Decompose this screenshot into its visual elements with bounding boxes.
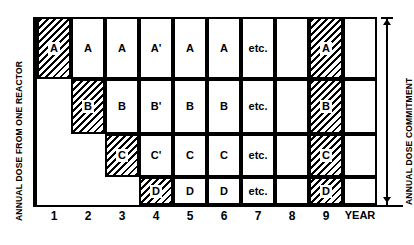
bar-cell-label: C [220, 150, 228, 161]
bar-cell-year-5-row-C: C [173, 134, 207, 177]
bar-cell-year-legend-row-D [343, 177, 377, 205]
bar-cell-year-9-row-D: D [309, 177, 343, 205]
bar-cell-year-9-row-C: C [309, 134, 343, 177]
bar-cell-label: C' [151, 150, 162, 161]
x-axis-line [33, 205, 403, 207]
bar-cell-year-5-row-A: A [173, 17, 207, 79]
bar-cell-label: A' [151, 43, 162, 54]
bar-cell-label: etc. [249, 101, 268, 112]
bar-cell-label: B [220, 101, 228, 112]
bar-cell-year-2-row-A: A [71, 17, 105, 79]
bar-cell-year-7-row-C: etc. [241, 134, 275, 177]
bar-cell-year-7-row-D: etc. [241, 177, 275, 205]
bar-cell-label: A [186, 43, 194, 54]
bar-cell-year-legend-row-C [343, 134, 377, 177]
bar-cell-year-legend-row-A [343, 17, 377, 79]
x-tick-label-3: 3 [105, 209, 139, 223]
bar-cell-label: B [321, 101, 331, 112]
plot-area: AABABCA'B'C'DABCDABCDetc.etc.etc.etc.ABC… [37, 17, 377, 205]
bar-cell-year-5-row-D: D [173, 177, 207, 205]
bar-cell-year-3-row-B: B [105, 79, 139, 134]
x-tick-label-8: 8 [275, 209, 309, 223]
bar-cell-year-9-row-A: A [309, 17, 343, 79]
bar-cell-year-legend-row-B [343, 79, 377, 134]
bar-cell-label: A [321, 43, 331, 54]
bar-cell-year-8-row-B [275, 79, 309, 134]
bar-cell-label: D [220, 186, 228, 197]
bar-cell-label: B' [151, 101, 162, 112]
bar-cell-year-4-row-D: D [139, 177, 173, 205]
x-tick-label-6: 6 [207, 209, 241, 223]
arrow-head-down-icon [383, 197, 391, 203]
annual-dose-commitment-arrow [381, 17, 393, 207]
bar-cell-label: C [117, 150, 127, 161]
bar-cell-year-9-row-B: B [309, 79, 343, 134]
bar-cell-year-7-row-A: etc. [241, 17, 275, 79]
bar-cell-label: B [83, 101, 93, 112]
arrow-head-up-icon [383, 19, 391, 25]
x-tick-label-2: 2 [71, 209, 105, 223]
bar-cell-year-4-row-A: A' [139, 17, 173, 79]
bar-cell-year-6-row-A: A [207, 17, 241, 79]
bar-cell-year-5-row-B: B [173, 79, 207, 134]
x-tick-label-5: 5 [173, 209, 207, 223]
bar-cell-year-1-row-A: A [37, 17, 71, 79]
bar-cell-label: etc. [249, 150, 268, 161]
arrow-cap-bottom [381, 205, 393, 207]
bar-cell-label: etc. [249, 186, 268, 197]
x-tick-label-1: 1 [37, 209, 71, 223]
bar-cell-year-4-row-C: C' [139, 134, 173, 177]
x-tick-label-9: 9 [309, 209, 343, 223]
x-axis-unit-label: YEAR [343, 209, 377, 221]
x-tick-label-7: 7 [241, 209, 275, 223]
bar-cell-year-2-row-B: B [71, 79, 105, 134]
y-axis-right-label: ANNUAL DOSE COMMITMENT [404, 78, 414, 206]
bar-cell-year-6-row-D: D [207, 177, 241, 205]
bar-cell-label: C [321, 150, 331, 161]
bar-cell-label: D [186, 186, 194, 197]
dose-commitment-diagram: ANNUAL DOSE FROM ONE REACTOR AABABCA'B'C… [0, 0, 414, 245]
x-axis-tick-labels: 123456789YEAR [37, 209, 377, 231]
bar-cell-year-6-row-C: C [207, 134, 241, 177]
bar-cell-label: B [186, 101, 194, 112]
bar-cell-year-3-row-A: A [105, 17, 139, 79]
bar-cell-label: A [220, 43, 228, 54]
bar-cell-year-8-row-C [275, 134, 309, 177]
bar-cell-year-3-row-C: C [105, 134, 139, 177]
y-axis-left-label: ANNUAL DOSE FROM ONE REACTOR [14, 61, 24, 221]
bar-cell-year-7-row-B: etc. [241, 79, 275, 134]
x-tick-label-4: 4 [139, 209, 173, 223]
bar-cell-year-4-row-B: B' [139, 79, 173, 134]
arrow-shaft [386, 17, 388, 207]
bar-cell-label: A [49, 43, 59, 54]
bar-cell-label: C [186, 150, 194, 161]
bar-cell-year-8-row-A [275, 17, 309, 79]
bar-cell-label: A [118, 43, 126, 54]
bar-cell-label: D [151, 186, 161, 197]
bar-cell-year-6-row-B: B [207, 79, 241, 134]
bar-cell-label: etc. [249, 43, 268, 54]
bar-cell-year-8-row-D [275, 177, 309, 205]
bar-cell-label: A [84, 43, 92, 54]
bar-cell-label: D [321, 186, 331, 197]
bar-cell-label: B [118, 101, 126, 112]
